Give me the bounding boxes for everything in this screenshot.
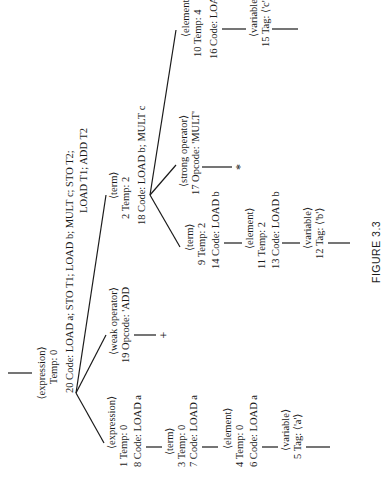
left-element-code: 6 Code: LOAD a <box>248 395 260 467</box>
right-term-temp: 2 Temp: 2 <box>120 177 132 219</box>
inner-variable-tag: 12 Tag: ⟨'b'⟩ <box>314 208 326 259</box>
parse-tree-figure: ⟨expression⟩ Temp: 0 20 Code: LOAD a; ST… <box>0 0 392 495</box>
left-element-temp: 4 Temp: 0 <box>234 425 246 467</box>
edge-right-term-inner-term <box>150 195 180 247</box>
left-element-label: ⟨element⟩ <box>222 408 234 449</box>
right-element-code: 16 Code: LOAD c <box>208 0 220 59</box>
inner-term-label: ⟨term⟩ <box>184 224 196 251</box>
plus-symbol: + <box>158 332 170 339</box>
inner-element-temp: 11 Temp: 2 <box>256 222 268 269</box>
weak-operator-label: ⟨weak operator⟩ <box>108 287 120 355</box>
left-term-label: ⟨term⟩ <box>164 428 176 455</box>
inner-element-code: 13 Code: LOAD b <box>270 191 282 269</box>
left-term-code: 7 Code: LOAD a <box>188 395 200 467</box>
right-term-label: ⟨term⟩ <box>108 172 120 199</box>
inner-term-code: 14 Code: LOAD b <box>210 191 222 269</box>
left-expression-temp: 1 Temp: 0 <box>118 425 130 467</box>
left-expression-code: 8 Code: LOAD a <box>132 395 144 467</box>
left-expression-label: ⟨expression⟩ <box>106 396 118 449</box>
root-code-line1: 20 Code: LOAD a; STO T1; LOAD b; MULT c;… <box>64 150 76 393</box>
figure-caption: FIGURE 3.3 <box>370 221 382 283</box>
root-temp: Temp: 0 <box>48 350 60 385</box>
left-term-temp: 3 Temp: 0 <box>176 425 188 467</box>
right-element-temp: 10 Temp: 4 <box>192 10 204 58</box>
right-term-code: 18 Code: LOAD b; MULT c <box>136 106 148 225</box>
times-symbol: * <box>234 164 246 170</box>
right-element-label: ⟨element⟩ <box>180 0 192 37</box>
strong-operator-opcode: 17 Opcode: 'MULT' <box>190 111 202 195</box>
weak-operator-opcode: 19 Opcode: 'ADD <box>120 287 132 363</box>
right-variable-label: ⟨variable⟩ <box>248 0 260 37</box>
right-variable-tag: 15 Tag: ⟨'c'⟩ <box>260 0 272 47</box>
edge-root-left-expression <box>76 393 104 443</box>
root-label: ⟨expression⟩ <box>36 346 48 399</box>
strong-operator-label: ⟨strong operator⟩ <box>178 115 190 187</box>
inner-element-label: ⟨element⟩ <box>244 208 256 249</box>
inner-term-temp: 9 Temp: 2 <box>196 223 208 265</box>
left-variable-tag: 5 Tag: ⟨'a'⟩ <box>292 414 304 459</box>
root-code-line2: LOAD T1; ADD T2 <box>78 128 90 213</box>
left-variable-label: ⟨variable⟩ <box>280 409 292 451</box>
inner-variable-label: ⟨variable⟩ <box>302 207 314 249</box>
